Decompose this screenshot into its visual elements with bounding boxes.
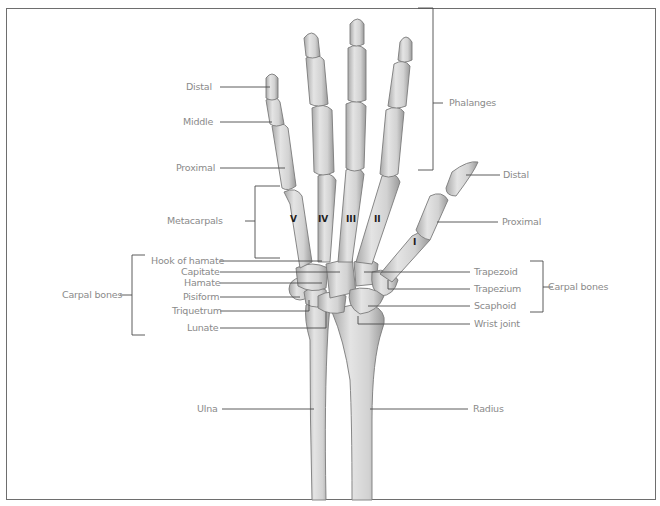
little-proximal-phalanx [272, 123, 296, 189]
thumb-proximal-phalanx [416, 194, 448, 240]
label-thumb-proximal: Proximal [502, 216, 541, 227]
label-triquetrum: Triquetrum [172, 305, 222, 316]
metacarpal-numeral-ii: II [374, 214, 381, 224]
label-scaphoid: Scaphoid [474, 300, 516, 311]
middle-distal-phalanx [350, 19, 364, 46]
label-trapezium: Trapezium [474, 283, 521, 294]
metacarpal-i [380, 233, 430, 282]
hand-skeleton-illustration [0, 0, 660, 506]
label-hook-of-hamate: Hook of hamate [151, 255, 224, 266]
label-carpal-bones-left: Carpal bones [62, 289, 122, 300]
label-middle-phalanx: Middle [183, 116, 213, 127]
label-radius: Radius [473, 403, 504, 414]
ulna-bone [306, 302, 331, 500]
label-carpal-bones-right: Carpal bones [548, 281, 608, 292]
label-distal-phalanx: Distal [186, 81, 212, 92]
ring-distal-phalanx [304, 33, 320, 58]
label-phalanges: Phalanges [449, 97, 496, 108]
metacarpal-v [284, 190, 312, 268]
metacarpal-numeral-iv: IV [318, 214, 328, 224]
index-middle-phalanx [388, 61, 410, 108]
middle-middle-phalanx [348, 45, 366, 102]
metacarpal-numeral-iii: III [346, 214, 356, 224]
thumb-distal-phalanx [446, 162, 478, 196]
middle-proximal-phalanx [346, 101, 366, 171]
label-trapezoid: Trapezoid [474, 266, 518, 277]
label-ulna: Ulna [197, 403, 218, 414]
ring-middle-phalanx [306, 55, 328, 106]
label-hamate: Hamate [184, 277, 220, 288]
metacarpal-numeral-i: I [413, 237, 416, 247]
label-lunate: Lunate [187, 322, 218, 333]
label-wrist-joint: Wrist joint [474, 318, 520, 329]
label-pisiform: Pisiform [183, 291, 219, 302]
label-capitate: Capitate [181, 266, 220, 277]
index-proximal-phalanx [380, 107, 404, 177]
metacarpal-numeral-v: V [290, 214, 297, 224]
label-proximal-phalanx: Proximal [176, 162, 215, 173]
index-distal-phalanx [398, 37, 412, 62]
label-thumb-distal: Distal [503, 169, 529, 180]
label-metacarpals: Metacarpals [167, 215, 223, 226]
radius-bone [332, 305, 384, 500]
leader-lines [120, 8, 553, 409]
ring-proximal-phalanx [312, 105, 334, 175]
